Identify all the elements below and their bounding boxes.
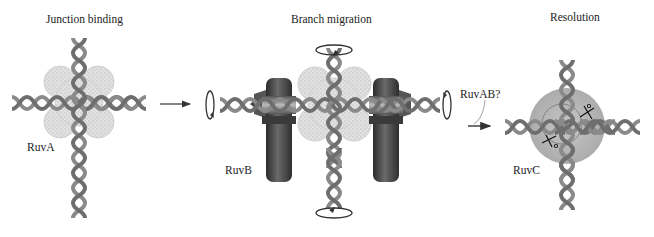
label-ruvc: RuvC	[513, 164, 540, 176]
rotation-arrow-top-icon	[316, 45, 352, 56]
stage-branch-migration	[206, 45, 451, 218]
stage-title-branch-migration: Branch migration	[291, 13, 372, 25]
stage-resolution	[505, 60, 640, 210]
stage-title-junction-binding: Junction binding	[46, 13, 123, 25]
holliday-junction-diagram	[0, 0, 654, 237]
label-ruvab-question: RuvAB?	[460, 88, 500, 100]
label-ruva: RuvA	[27, 141, 54, 153]
rotation-arrow-left-icon	[206, 91, 214, 119]
stage-title-resolution: Resolution	[550, 11, 600, 23]
stage-junction-binding	[12, 38, 146, 218]
dna-helix-vertical	[73, 38, 85, 218]
ruvab-leader-line	[474, 100, 485, 124]
rotation-arrow-bottom-icon	[316, 207, 352, 218]
label-ruvb: RuvB	[225, 164, 252, 176]
ruvb-ring-left	[250, 78, 296, 182]
rotation-arrow-right-icon	[443, 91, 451, 119]
ruvb-ring-right	[369, 78, 411, 182]
